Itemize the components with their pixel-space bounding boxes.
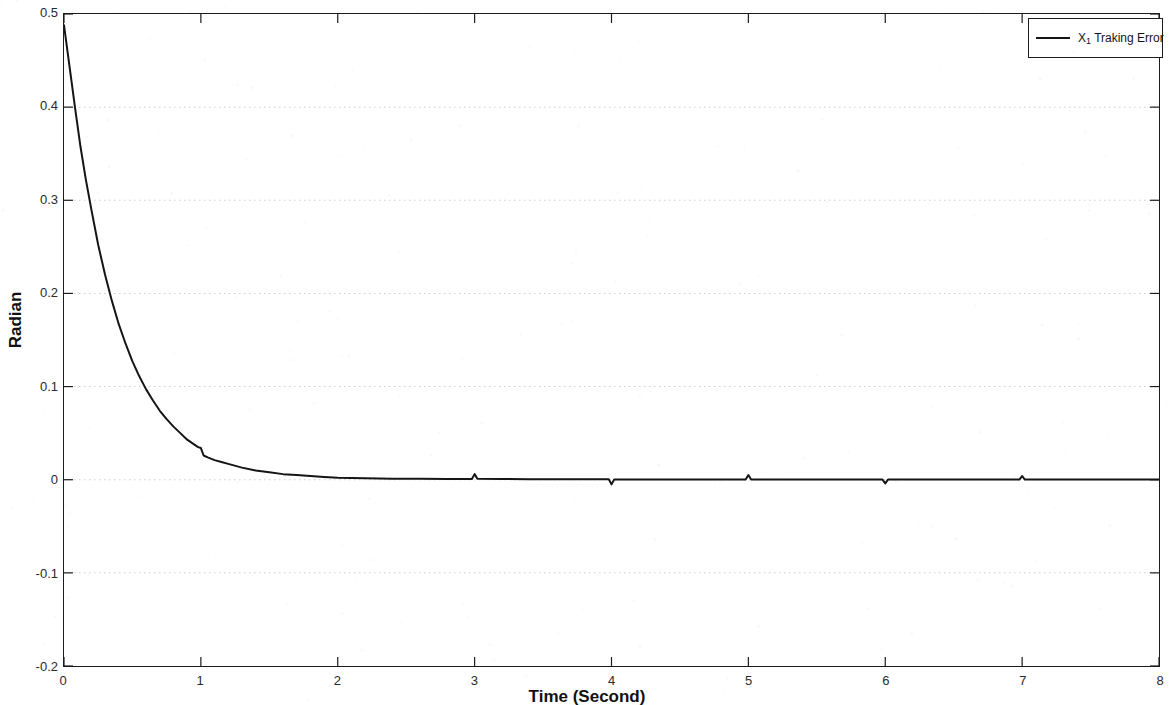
legend-label-base: X — [1078, 31, 1086, 45]
plot-area — [63, 13, 1160, 667]
x-tick-label: 2 — [334, 674, 341, 687]
y-tick-label: 0 — [51, 473, 58, 486]
legend-label-subscript: 1 — [1086, 36, 1091, 46]
x-tick-label: 8 — [1156, 674, 1163, 687]
legend-box: X1 Traking Error — [1028, 18, 1163, 58]
y-tick-label: 0.3 — [40, 193, 58, 206]
y-tick-label: -0.2 — [36, 660, 58, 673]
plot-svg — [64, 14, 1159, 666]
tick-marks — [64, 14, 1159, 666]
y-tick-label: 0.1 — [40, 380, 58, 393]
x-tick-label: 7 — [1019, 674, 1026, 687]
y-tick-label: 0.4 — [40, 99, 58, 112]
y-tick-label: 0.2 — [40, 286, 58, 299]
x-tick-label: 0 — [59, 674, 66, 687]
y-tick-label: -0.1 — [36, 567, 58, 580]
figure-canvas: Radian 0.50.40.30.20.10-0.1-0.2 01234567… — [0, 0, 1174, 705]
x-tick-label: 5 — [745, 674, 752, 687]
grid-lines — [64, 107, 1159, 573]
legend-line-swatch — [1036, 37, 1070, 39]
y-axis-tick-labels: 0.50.40.30.20.10-0.1-0.2 — [0, 0, 58, 705]
legend-entry-label: X1 Traking Error — [1078, 32, 1164, 44]
legend-entry: X1 Traking Error — [1029, 19, 1162, 57]
x-tick-label: 4 — [608, 674, 615, 687]
x-axis-title: Time (Second) — [0, 687, 1174, 705]
legend-label-rest: Traking Error — [1091, 31, 1164, 45]
y-tick-label: 0.5 — [40, 6, 58, 19]
x-tick-label: 1 — [197, 674, 204, 687]
x-tick-label: 3 — [471, 674, 478, 687]
data-series-line — [64, 25, 1159, 484]
x-tick-label: 6 — [882, 674, 889, 687]
